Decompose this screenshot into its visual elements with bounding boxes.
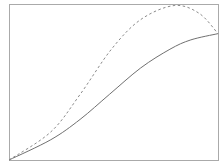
series-line-dashed	[9, 5, 218, 160]
plot-frame	[10, 5, 219, 161]
series-group	[9, 5, 218, 160]
line-chart	[0, 0, 222, 168]
chart-canvas	[0, 0, 222, 168]
series-line-solid	[9, 34, 218, 160]
